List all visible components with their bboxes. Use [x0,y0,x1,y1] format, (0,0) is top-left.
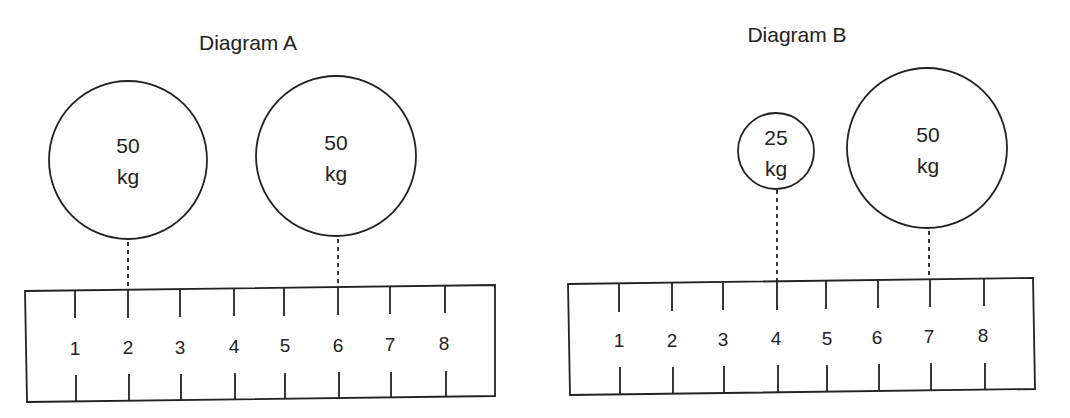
weight-b2: 50 kg [847,68,1007,278]
ruler-label-6: 6 [333,335,344,356]
weight-unit: kg [117,165,139,188]
weight-value: 50 [324,131,347,154]
ruler-ticks-top [75,286,445,318]
balance-diagrams-canvas: Diagram A 50 kg 50 kg [0,0,1070,418]
ruler-label-8: 8 [978,325,989,346]
weight-a1: 50 kg [49,81,207,290]
weight-circle [256,76,416,236]
ruler-label-3: 3 [175,337,186,358]
weight-circle [847,68,1007,228]
diagram-a: Diagram A 50 kg 50 kg [25,31,495,402]
ruler-label-5: 5 [822,328,833,349]
ruler-label-6: 6 [872,327,883,348]
ruler-ticks-top [619,279,984,312]
ruler-ticks-bottom [620,363,985,394]
ruler-body [568,278,1035,395]
ruler-labels: 1 2 3 4 5 6 7 8 [70,333,450,359]
weight-a2: 50 kg [256,76,416,286]
weight-circle [49,81,207,239]
weight-b1: 25 kg [738,113,814,282]
ruler-label-4: 4 [229,336,240,357]
ruler-label-5: 5 [280,335,291,356]
weight-unit: kg [765,157,787,180]
ruler-label-3: 3 [718,329,729,350]
diagram-b: Diagram B 25 kg 50 kg [568,23,1035,395]
diagram-b-title: Diagram B [747,23,846,46]
ruler-label-7: 7 [385,334,396,355]
weight-unit: kg [325,162,347,185]
weight-unit: kg [917,154,939,177]
ruler-a: 1 2 3 4 5 6 7 8 [25,285,495,402]
ruler-label-2: 2 [667,330,678,351]
ruler-label-1: 1 [614,330,625,351]
diagram-a-title: Diagram A [199,31,297,54]
ruler-label-4: 4 [771,328,782,349]
ruler-label-7: 7 [924,326,935,347]
ruler-b: 1 2 3 4 5 6 7 8 [568,278,1035,395]
ruler-label-8: 8 [439,333,450,354]
ruler-label-2: 2 [123,337,134,358]
ruler-ticks-bottom [76,371,446,401]
weight-value: 25 [764,126,787,149]
weight-value: 50 [116,134,139,157]
ruler-body [25,285,495,402]
weight-value: 50 [916,123,939,146]
ruler-label-1: 1 [70,338,81,359]
ruler-labels: 1 2 3 4 5 6 7 8 [614,325,989,351]
